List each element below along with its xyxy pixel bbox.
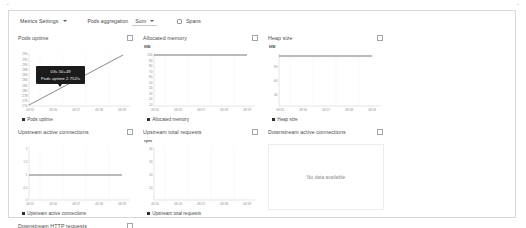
plot-area: 9060 30 03:5503:56 03:5703:58 03:59 <box>268 50 384 116</box>
svg-text:03:56: 03:56 <box>49 202 57 206</box>
svg-text:03:55: 03:55 <box>151 202 159 206</box>
metrics-settings-label: Metrics Settings <box>20 18 59 24</box>
panel-header: Heap size <box>268 35 383 44</box>
top-right-mark: ⌄ <box>516 2 519 6</box>
panel-title: Pods uptime <box>18 35 49 41</box>
svg-text:10: 10 <box>149 186 153 190</box>
svg-text:30: 30 <box>149 92 153 96</box>
svg-text:03:55: 03:55 <box>151 108 159 112</box>
plot-area: 4030 2010 03:5503:56 03:5703:58 03:59 <box>143 144 259 210</box>
svg-text:40: 40 <box>149 147 153 151</box>
svg-text:03:58: 03:58 <box>220 108 228 112</box>
panel-title: Heap size <box>268 35 292 41</box>
expand-icon[interactable] <box>252 35 258 41</box>
spans-checkbox-label: Spans <box>186 18 201 24</box>
legend-swatch <box>22 118 25 121</box>
panel-header: Downstream HTTP requests <box>18 223 133 228</box>
chart-svg: 21.5 10.5 0 03:5503:56 03:5703:58 03:59 <box>18 144 134 210</box>
svg-text:286: 286 <box>22 73 27 77</box>
svg-text:292: 292 <box>22 58 27 62</box>
chart-tooltip: 03s 50+49 Pods uptime 2.752/s <box>36 66 85 84</box>
panel-downstream-http-requests: Downstream HTTP requests No data availab… <box>13 219 138 228</box>
svg-text:03:55: 03:55 <box>276 108 284 112</box>
panel-header: Upstream total requests <box>143 129 258 138</box>
panel-title: Downstream HTTP requests <box>18 223 87 228</box>
legend-label[interactable]: Pods uptime <box>27 117 53 122</box>
pods-aggregation-label: Pods aggregation <box>88 18 129 24</box>
svg-text:1: 1 <box>26 173 28 177</box>
svg-text:03:59: 03:59 <box>243 108 251 112</box>
expand-icon[interactable] <box>377 129 383 135</box>
svg-text:274: 274 <box>22 104 27 108</box>
panel-title: Upstream total requests <box>143 129 202 135</box>
svg-text:03:58: 03:58 <box>95 202 103 206</box>
plot-area: 10090 8070 6050 4030 2010 03:5503:56 03:… <box>143 50 259 116</box>
svg-text:03:55: 03:55 <box>26 202 34 206</box>
panel-title: Downstream active connections <box>268 129 346 135</box>
svg-text:03:59: 03:59 <box>243 202 251 206</box>
panel-title: Upstream active connections <box>18 129 89 135</box>
panel-allocated-memory: Allocated memory MB <box>138 31 263 125</box>
pods-aggregation-group: Pods aggregation Sum <box>88 16 158 26</box>
svg-text:20: 20 <box>149 97 153 101</box>
metrics-panel-grid: Pods uptime <box>9 31 515 228</box>
svg-text:290: 290 <box>22 63 27 67</box>
svg-text:2: 2 <box>26 147 28 151</box>
checkbox-icon[interactable] <box>177 19 182 24</box>
chart-svg: 10090 8070 6050 4030 2010 03:5503:56 03:… <box>143 50 259 116</box>
svg-text:03:58: 03:58 <box>95 108 103 112</box>
metrics-card: Metrics Settings Pods aggregation Sum Sp… <box>8 10 516 218</box>
panel-heap-size: Heap size MB <box>263 31 388 125</box>
svg-text:03:56: 03:56 <box>49 108 57 112</box>
expand-icon[interactable] <box>127 223 133 228</box>
legend-label[interactable]: Heap size <box>277 117 297 122</box>
chevron-down-icon <box>63 20 67 22</box>
svg-text:80: 80 <box>149 64 153 68</box>
svg-text:03:57: 03:57 <box>197 202 205 206</box>
empty-state: No data available <box>268 144 384 210</box>
panel-header: Downstream active connections <box>268 129 383 138</box>
empty-state-message: No data available <box>307 174 346 180</box>
panel-upstream-active-connections: Upstream active connections <box>13 125 138 219</box>
chart-legend: Heap size <box>272 117 383 122</box>
chart-svg: 9060 30 03:5503:56 03:5703:58 03:59 <box>268 50 384 116</box>
svg-text:284: 284 <box>22 78 27 82</box>
svg-text:40: 40 <box>149 86 153 90</box>
svg-text:90: 90 <box>274 65 278 69</box>
pods-aggregation-dropdown[interactable]: Sum <box>132 16 157 26</box>
svg-text:03:58: 03:58 <box>220 202 228 206</box>
expand-icon[interactable] <box>252 129 258 135</box>
svg-text:50: 50 <box>149 81 153 85</box>
legend-label[interactable]: Allocated memory <box>152 117 189 122</box>
plot-area: 21.5 10.5 0 03:5503:56 03:5703:58 03:59 <box>18 144 134 210</box>
svg-text:280: 280 <box>22 89 27 93</box>
legend-label[interactable]: Upstream active connections <box>27 211 86 216</box>
svg-text:278: 278 <box>22 94 27 98</box>
svg-text:03:57: 03:57 <box>322 108 330 112</box>
top-left-mark: ⌄ <box>6 2 9 6</box>
expand-icon[interactable] <box>377 35 383 41</box>
panel-pods-uptime: Pods uptime <box>13 31 138 125</box>
chart-legend: Allocated memory <box>147 117 258 122</box>
svg-text:20: 20 <box>149 173 153 177</box>
svg-text:03:59: 03:59 <box>118 108 126 112</box>
chart-legend: Pods uptime <box>22 117 133 122</box>
metrics-dashboard-page: ⌄ ⌄ Metrics Settings Pods aggregation Su… <box>0 0 526 228</box>
svg-text:100: 100 <box>147 53 152 57</box>
svg-text:03:56: 03:56 <box>174 108 182 112</box>
legend-swatch <box>147 212 150 215</box>
svg-text:30: 30 <box>274 93 278 97</box>
metrics-settings-dropdown[interactable]: Metrics Settings <box>17 16 70 26</box>
legend-label[interactable]: Upstream total requests <box>152 211 201 216</box>
panel-downstream-active-connections: Downstream active connections No data av… <box>263 125 388 219</box>
svg-text:03:59: 03:59 <box>368 108 376 112</box>
svg-text:03:57: 03:57 <box>72 108 80 112</box>
svg-text:60: 60 <box>274 79 278 83</box>
chart-legend: Upstream active connections <box>22 211 133 216</box>
spans-checkbox[interactable]: Spans <box>177 18 201 24</box>
plot-area: 294292 290288 286284 282280 278276 274 0… <box>18 50 134 116</box>
pods-aggregation-value: Sum <box>135 18 146 24</box>
expand-icon[interactable] <box>127 129 133 135</box>
expand-icon[interactable] <box>127 35 133 41</box>
svg-text:282: 282 <box>22 84 27 88</box>
